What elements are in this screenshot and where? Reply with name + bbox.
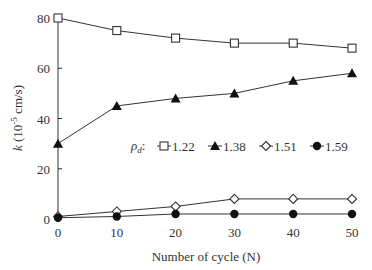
- diamond-marker: [262, 142, 271, 151]
- x-tick-label: 40: [287, 225, 300, 240]
- series-line: [58, 214, 352, 218]
- legend-item: 1.51: [259, 139, 297, 154]
- legend-item: 1.59: [310, 139, 348, 154]
- square-marker: [54, 14, 62, 22]
- series-line: [58, 18, 352, 48]
- circle-marker: [54, 214, 62, 222]
- square-marker: [348, 44, 356, 52]
- series-1-22: [54, 14, 356, 52]
- legend-item: 1.38: [208, 139, 246, 154]
- y-tick-label: 80: [37, 11, 50, 26]
- circle-marker: [289, 210, 297, 218]
- legend-label: 1.22: [172, 139, 195, 154]
- series-line: [58, 73, 352, 143]
- square-marker: [160, 142, 168, 150]
- square-marker: [289, 39, 297, 47]
- y-axis-label: k (10-5 cm/s): [9, 85, 25, 151]
- series-group: [53, 14, 357, 222]
- diamond-marker: [289, 194, 298, 203]
- y-tick-label: 0: [44, 212, 51, 227]
- x-tick-label: 50: [346, 225, 359, 240]
- legend-item: 1.22: [157, 139, 195, 154]
- square-marker: [172, 34, 180, 42]
- series-1-59: [54, 210, 356, 222]
- y-tick-label: 20: [37, 162, 50, 177]
- x-tick-label: 30: [228, 225, 241, 240]
- circle-marker: [348, 210, 356, 218]
- legend: ρd:1.221.381.511.59: [130, 138, 348, 155]
- x-tick-label: 20: [169, 225, 182, 240]
- x-tick-label: 10: [110, 225, 123, 240]
- diamond-marker: [230, 194, 239, 203]
- triangle-marker: [347, 68, 357, 77]
- square-marker: [230, 39, 238, 47]
- x-tick-label: 0: [55, 225, 62, 240]
- legend-label: 1.59: [325, 139, 348, 154]
- legend-label: 1.51: [274, 139, 297, 154]
- circle-marker: [113, 212, 121, 220]
- square-marker: [113, 27, 121, 35]
- circle-marker: [313, 142, 321, 150]
- legend-label: 1.38: [223, 139, 246, 154]
- legend-title: ρd:: [130, 138, 145, 155]
- y-tick-label: 60: [37, 61, 50, 76]
- circle-marker: [230, 210, 238, 218]
- series-1-38: [53, 68, 357, 147]
- x-axis-label: Number of cycle (N): [152, 249, 261, 264]
- permeability-line-chart: 02040608001020304050 ρd:1.221.381.511.59…: [0, 0, 372, 270]
- circle-marker: [171, 210, 179, 218]
- y-tick-label: 40: [37, 112, 50, 127]
- diamond-marker: [348, 194, 357, 203]
- axes: 02040608001020304050: [37, 11, 359, 240]
- triangle-marker: [53, 139, 63, 148]
- diamond-marker: [171, 202, 180, 211]
